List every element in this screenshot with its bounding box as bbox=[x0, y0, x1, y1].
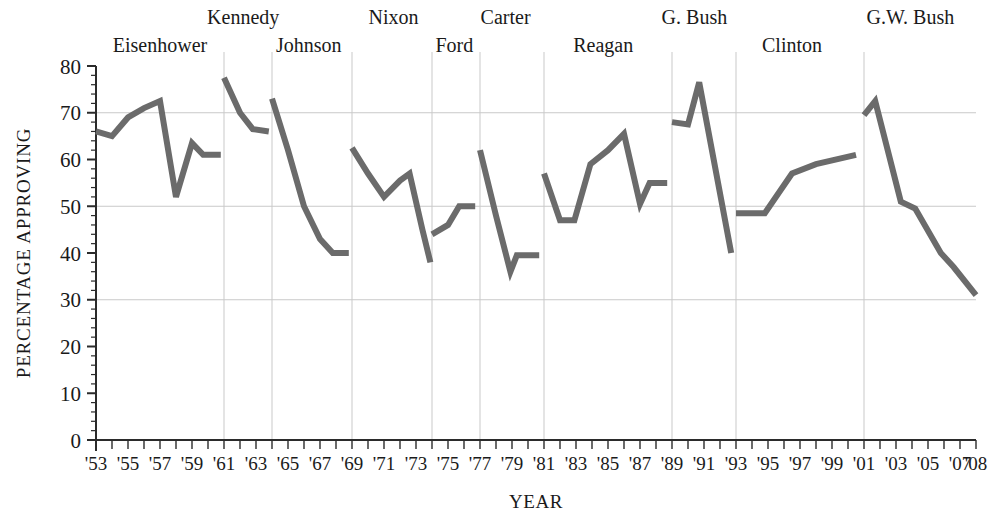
y-tick-label: 20 bbox=[60, 335, 81, 359]
president-label: Reagan bbox=[573, 34, 633, 57]
x-tick-label: '53 bbox=[85, 453, 107, 474]
presidential-approval-chart: 01020304050607080 '53'55'57'59'61'63'65'… bbox=[0, 0, 1008, 522]
x-tick-label: '83 bbox=[565, 453, 587, 474]
x-tick-labels: '53'55'57'59'61'63'65'67'69'71'73'75'77'… bbox=[85, 453, 987, 474]
president-label: G.W. Bush bbox=[867, 6, 955, 28]
x-tick-label: '05 bbox=[917, 453, 939, 474]
president-label: Carter bbox=[481, 6, 531, 28]
president-label: Ford bbox=[436, 34, 474, 56]
y-tick-label: 30 bbox=[60, 288, 81, 312]
x-tick-label: '87 bbox=[629, 453, 651, 474]
approval-line-g-bush bbox=[672, 82, 731, 253]
y-axis-title: PERCENTAGE APPROVING bbox=[13, 128, 34, 378]
approval-line-carter bbox=[480, 150, 539, 272]
president-label: Clinton bbox=[762, 34, 822, 56]
x-tick-label: '55 bbox=[117, 453, 139, 474]
y-tick-label: 50 bbox=[60, 195, 81, 219]
x-tick-label: '91 bbox=[693, 453, 715, 474]
x-tick-label: '63 bbox=[245, 453, 267, 474]
x-tick-label: '85 bbox=[597, 453, 619, 474]
gridlines-horizontal bbox=[96, 113, 976, 300]
x-tick-label: '99 bbox=[821, 453, 843, 474]
x-tick-label: '08 bbox=[965, 453, 987, 474]
y-tick-label: 10 bbox=[60, 382, 81, 406]
approval-line-kennedy bbox=[224, 78, 269, 132]
approval-line-reagan bbox=[544, 134, 667, 220]
x-tick-label: '65 bbox=[277, 453, 299, 474]
x-tick-label: '71 bbox=[373, 453, 395, 474]
chart-canvas: 01020304050607080 '53'55'57'59'61'63'65'… bbox=[0, 0, 1008, 522]
president-label: Nixon bbox=[369, 6, 419, 28]
x-tick-label: '79 bbox=[501, 453, 523, 474]
approval-line-ford bbox=[432, 206, 475, 234]
x-tick-label: '97 bbox=[789, 453, 811, 474]
x-tick-label: '73 bbox=[405, 453, 427, 474]
y-tick-label: 80 bbox=[60, 55, 81, 79]
approval-lines bbox=[96, 78, 976, 295]
y-tick-label: 60 bbox=[60, 148, 81, 172]
president-label: Eisenhower bbox=[113, 34, 208, 56]
x-tick-label: '95 bbox=[757, 453, 779, 474]
x-tick-label: '59 bbox=[181, 453, 203, 474]
x-tick-label: '03 bbox=[885, 453, 907, 474]
x-tick-label: '01 bbox=[853, 453, 875, 474]
x-tick-label: '93 bbox=[725, 453, 747, 474]
y-tick-label: 40 bbox=[60, 242, 81, 266]
x-tick-label: '89 bbox=[661, 453, 683, 474]
x-tick-label: '67 bbox=[309, 453, 331, 474]
approval-line-clinton bbox=[736, 155, 856, 213]
x-tick-label: '77 bbox=[469, 453, 491, 474]
approval-line-johnson bbox=[272, 99, 349, 253]
y-tick-label: 70 bbox=[60, 101, 81, 125]
x-axis bbox=[96, 440, 976, 451]
president-label: Johnson bbox=[276, 34, 342, 56]
approval-line-eisenhower bbox=[96, 101, 221, 197]
president-label: G. Bush bbox=[662, 6, 728, 28]
x-axis-title: YEAR bbox=[509, 491, 563, 512]
x-tick-label: '57 bbox=[149, 453, 171, 474]
president-labels: EisenhowerKennedyJohnsonNixonFordCarterR… bbox=[113, 6, 954, 57]
president-label: Kennedy bbox=[207, 6, 279, 29]
y-axis bbox=[87, 66, 96, 440]
approval-line-nixon bbox=[352, 148, 430, 263]
x-tick-label: '81 bbox=[533, 453, 555, 474]
approval-line-g-w-bush bbox=[864, 101, 976, 295]
gridlines-vertical-president-dividers bbox=[224, 52, 864, 440]
x-tick-label: '69 bbox=[341, 453, 363, 474]
x-tick-label: '61 bbox=[213, 453, 235, 474]
y-tick-labels: 01020304050607080 bbox=[60, 55, 81, 453]
x-tick-label: '75 bbox=[437, 453, 459, 474]
y-tick-label: 0 bbox=[71, 429, 82, 453]
